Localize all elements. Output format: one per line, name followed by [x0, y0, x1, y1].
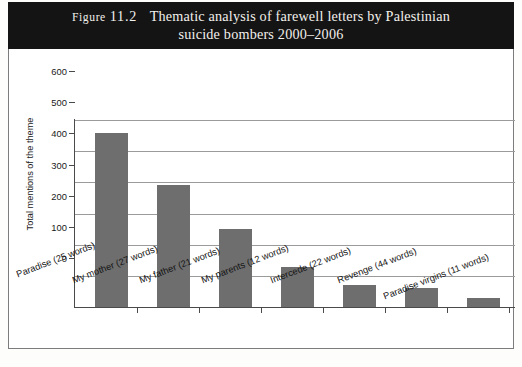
gridline-400	[75, 182, 515, 183]
bar-intercede[interactable]	[343, 285, 376, 307]
y-tick-mark-500	[69, 102, 75, 103]
gridline-200	[75, 245, 515, 246]
y-tick-mark-600	[69, 71, 75, 72]
x-tick-mark-4	[323, 308, 324, 313]
chart-plot-frame: Total mentions of the theme 600 500 400 …	[8, 49, 514, 349]
bar-my-mother[interactable]	[157, 185, 190, 307]
y-tick-label-500: 500	[27, 97, 67, 108]
bar-paradise-virgins[interactable]	[467, 298, 500, 307]
figure-title-text: Figure 11.2 Thematic analysis of farewel…	[72, 8, 450, 43]
x-axis-line	[74, 307, 515, 308]
x-tick-mark-6	[447, 308, 448, 313]
figure-title-line-2: suicide bombers 2000–2006	[179, 26, 344, 42]
x-tick-mark-2	[199, 308, 200, 313]
gridline-300	[75, 214, 515, 215]
x-tick-mark-3	[261, 308, 262, 313]
figure-root: Figure 11.2 Thematic analysis of farewel…	[0, 0, 522, 367]
y-tick-label-600: 600	[27, 66, 67, 77]
y-tick-label-100: 100	[27, 221, 67, 232]
x-tick-mark-5	[385, 308, 386, 313]
x-tick-mark-7	[509, 308, 510, 313]
bar-paradise[interactable]	[95, 133, 128, 308]
gridline-500	[75, 151, 515, 152]
x-tick-mark-1	[137, 308, 138, 313]
gridline-600	[75, 120, 515, 121]
y-tick-label-400: 400	[27, 128, 67, 139]
figure-title-line-1: Thematic analysis of farewell letters by…	[150, 8, 450, 24]
y-tick-label-300: 300	[27, 159, 67, 170]
page-bottom-clipped-text	[4, 356, 204, 364]
y-tick-label-200: 200	[27, 190, 67, 201]
figure-number: 11.2	[110, 8, 138, 24]
figure-title-banner: Figure 11.2 Thematic analysis of farewel…	[8, 2, 514, 49]
y-axis-tick-labels: 600 500 400 300 200 100 0	[23, 49, 67, 349]
figure-label-word: Figure	[72, 11, 106, 24]
